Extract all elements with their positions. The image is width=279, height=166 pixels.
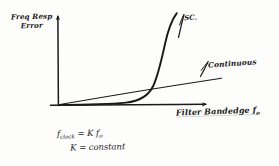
y-axis-label: Freq Resp Error <box>11 13 53 30</box>
handwritten-figure: Freq Resp Error SC. Continuous Filter Ba… <box>0 0 279 166</box>
x-axis-label-text: Filter Bandedge <box>176 105 250 118</box>
sc-annotation-label: SC. <box>184 14 198 22</box>
formula-block: fclock = K fo K = constant <box>57 126 126 154</box>
formula-line-2: K = constant <box>70 140 125 154</box>
formula-clock-subscript: clock <box>60 133 75 139</box>
y-axis <box>58 17 59 106</box>
formula-line-1-rhs: = K f <box>75 128 100 139</box>
formula-fo-subscript: o <box>99 133 103 139</box>
continuous-curve <box>59 78 222 105</box>
y-axis-label-line1: Freq Resp <box>11 12 53 22</box>
x-axis-label-subscript: o <box>256 110 260 116</box>
y-axis-label-line2: Error <box>11 21 53 29</box>
formula-line-1: fclock = K fo <box>57 128 103 139</box>
sc-curve <box>59 13 177 105</box>
